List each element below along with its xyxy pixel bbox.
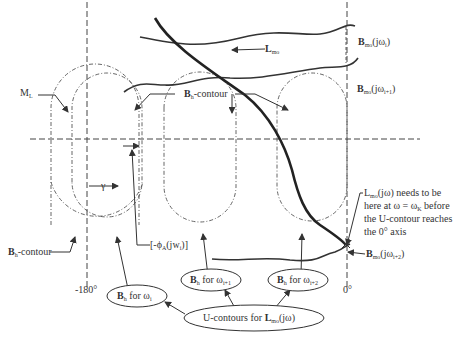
- lmo-pointer: [232, 49, 265, 50]
- bh-contour-pointer-right: [235, 94, 288, 110]
- nichols-chart-diagram: ML Bh-contour Bh-contour Lmo γ [-ϕA(jwi)…: [0, 0, 457, 343]
- u-contours-text: U-contours for Lmo(jω): [203, 312, 295, 324]
- note-line-2: here at ω = ωK before: [364, 200, 450, 212]
- note-line-1: Lmo(jω) needs to be: [364, 187, 442, 199]
- u-oval-pointer-1: [165, 302, 185, 314]
- ml-label: ML: [20, 87, 33, 99]
- bound-bottom-curve: [212, 244, 350, 261]
- minus-180-label: -180°: [75, 284, 97, 295]
- zero-degree-label: 0°: [343, 284, 352, 295]
- note-pointer: [347, 193, 363, 245]
- bh-prime-pointer: [50, 237, 75, 252]
- bmo-bottom-label: Bmo(jωi+2): [366, 248, 404, 260]
- bmo-top-label: Bmo(jωi): [358, 36, 390, 48]
- lmo-label: Lmo: [265, 43, 279, 55]
- ml-pointer: [38, 95, 68, 112]
- phase-pointer: [132, 150, 150, 245]
- note-line-4: the 0° axis: [364, 226, 406, 237]
- bh-contour-label: Bh-contour: [184, 88, 228, 100]
- bh-prime-contour-label: Bh-contour: [8, 246, 52, 258]
- note-line-3: the U-contour reaches: [364, 213, 452, 224]
- oval-1-pointer: [117, 237, 128, 289]
- bh-contour-right: [277, 73, 347, 221]
- bmo-bottom-pointer: [348, 252, 365, 254]
- bh-contour-pointer-left: [135, 94, 175, 110]
- lmo-curve: [155, 18, 346, 245]
- bmo-mid-label: Bmo(jωi+1): [357, 83, 395, 95]
- gamma-label: γ: [100, 180, 106, 191]
- bh-prime-contour-bottom: [51, 182, 143, 216]
- ml-contour: [51, 64, 139, 225]
- phase-label: [-ϕA(jwi)]: [150, 239, 188, 251]
- bh-contour-left: [72, 73, 142, 217]
- oval-1-text: Bh for ωi: [117, 290, 152, 302]
